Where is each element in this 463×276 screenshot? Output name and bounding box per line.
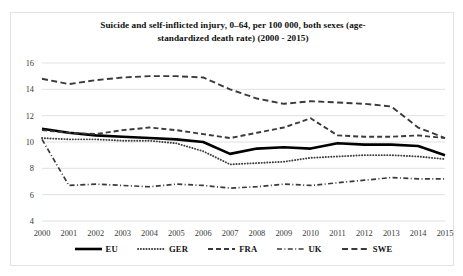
legend-label: GER: [169, 244, 188, 254]
x-axis-tick-label: 2001: [60, 229, 77, 238]
y-axis-tick-label: 4: [30, 217, 35, 226]
x-axis-tick-label: 2004: [141, 229, 159, 238]
gridlines: [42, 63, 445, 221]
x-axis-tick-label: 2005: [168, 229, 185, 238]
x-axis-tick-label: 2007: [222, 229, 239, 238]
y-axis-tick-label: 14: [26, 85, 35, 94]
chart-card: Suicide and self-inflicted injury, 0–64,…: [10, 12, 454, 266]
x-axis-tick-label: 2003: [114, 229, 131, 238]
legend-item-uk[interactable]: UK: [276, 244, 321, 254]
y-axis-tick-label: 16: [26, 59, 34, 68]
y-axis-tick-labels: 46810121416: [26, 59, 35, 226]
legend-item-swe[interactable]: SWE: [341, 244, 393, 254]
dashed-swatch: [207, 244, 236, 254]
x-axis-tick-label: 2000: [34, 229, 51, 238]
y-axis-tick-label: 10: [26, 138, 34, 147]
x-axis-tick-label: 2011: [329, 229, 345, 238]
dash-dot-swatch: [276, 244, 305, 254]
y-axis-tick-label: 12: [26, 112, 34, 121]
plot-area: 46810121416 2000200120022003200420052006…: [11, 13, 455, 267]
x-axis-tick-label: 2012: [356, 229, 373, 238]
y-axis-tick-label: 6: [30, 191, 34, 200]
x-axis-tick-label: 2015: [437, 229, 454, 238]
legend-label: SWE: [373, 244, 393, 254]
solid-thick-swatch: [74, 244, 103, 254]
chart-svg: 46810121416 2000200120022003200420052006…: [11, 13, 455, 267]
chart-legend: EUGERFRAUKSWE: [33, 239, 433, 259]
legend-label: EU: [106, 244, 118, 254]
series-line-uk: [42, 139, 445, 188]
dotted-swatch: [137, 244, 166, 254]
legend-item-ger[interactable]: GER: [137, 244, 188, 254]
long-dash-swatch: [341, 244, 370, 254]
x-axis-tick-labels: 2000200120022003200420052006200720082009…: [34, 229, 454, 238]
x-axis-tick-label: 2010: [302, 229, 319, 238]
legend-item-fra[interactable]: FRA: [207, 244, 257, 254]
series-line-swe: [42, 76, 445, 138]
x-axis-tick-label: 2013: [383, 229, 400, 238]
x-axis-tick-label: 2006: [195, 229, 212, 238]
data-series-layer: [42, 76, 445, 188]
x-axis-tick-label: 2002: [87, 229, 104, 238]
x-axis-tick-label: 2008: [249, 229, 266, 238]
y-axis-tick-label: 8: [30, 164, 34, 173]
legend-label: UK: [308, 244, 321, 254]
legend-label: FRA: [239, 244, 257, 254]
x-axis-tick-label: 2009: [275, 229, 292, 238]
legend-item-eu[interactable]: EU: [74, 244, 118, 254]
x-axis-tick-label: 2014: [410, 229, 428, 238]
